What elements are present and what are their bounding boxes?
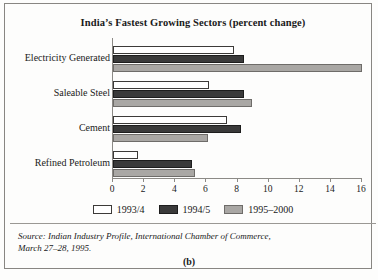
x-axis-tick-label: 8 (224, 184, 250, 194)
category-label: Saleable Steel (0, 87, 110, 98)
figure-panel-b: India’s Fastest Growing Sectors (percent… (0, 0, 378, 280)
x-axis-tick (143, 178, 144, 182)
bar (113, 134, 208, 142)
category-axis-labels: Electricity GeneratedSaleable SteelCemen… (0, 38, 110, 178)
legend-label: 1995–2000 (248, 204, 293, 215)
x-axis-tick-label: 10 (255, 184, 281, 194)
bar (113, 99, 252, 107)
legend-label: 1994/5 (183, 204, 211, 215)
bar-group (113, 116, 362, 142)
bar-group (113, 151, 362, 177)
x-axis-tick (112, 178, 113, 182)
x-axis-tick-label: 6 (192, 184, 218, 194)
x-axis-tick-label: 2 (130, 184, 156, 194)
chart-panel: India’s Fastest Growing Sectors (percent… (10, 8, 376, 224)
x-axis-tick (330, 178, 331, 182)
legend-item: 1993/4 (93, 204, 145, 215)
legend-swatch-icon (159, 205, 178, 214)
legend-label: 1993/4 (117, 204, 145, 215)
x-axis-tick-label: 16 (348, 184, 374, 194)
bar-group (113, 46, 362, 72)
legend-swatch-icon (224, 205, 243, 214)
x-axis-tick-label: 14 (317, 184, 343, 194)
bar (113, 90, 244, 98)
x-axis-tick (174, 178, 175, 182)
bar (113, 64, 362, 72)
x-axis-tick (299, 178, 300, 182)
x-axis-tick-label: 0 (99, 184, 125, 194)
source-line-1: Source: Indian Industry Profile, Interna… (18, 230, 348, 242)
plot-area: Electricity GeneratedSaleable SteelCemen… (112, 38, 361, 178)
x-axis-tick (361, 178, 362, 182)
bar (113, 46, 234, 54)
chart-legend: 1993/41994/51995–2000 (10, 204, 376, 215)
bar (113, 169, 195, 177)
category-label: Cement (0, 122, 110, 133)
panel-label: (b) (0, 256, 378, 267)
bar-group (113, 81, 362, 107)
legend-swatch-icon (93, 205, 112, 214)
x-axis-tick (205, 178, 206, 182)
bar (113, 125, 241, 133)
figure-border: India’s Fastest Growing Sectors (percent… (4, 3, 372, 269)
source-line-2: March 27–28, 1995. (18, 242, 348, 254)
category-label: Refined Petroleum (0, 157, 110, 168)
x-axis-tick (237, 178, 238, 182)
x-axis-tick-label: 12 (286, 184, 312, 194)
x-axis-tick-label: 4 (161, 184, 187, 194)
x-axis-tick (268, 178, 269, 182)
bar (113, 55, 244, 63)
category-label: Electricity Generated (0, 52, 110, 63)
bar (113, 151, 138, 159)
bar (113, 160, 192, 168)
legend-item: 1994/5 (159, 204, 211, 215)
bar (113, 116, 227, 124)
bar (113, 81, 209, 89)
chart-title: India’s Fastest Growing Sectors (percent… (10, 17, 376, 28)
legend-item: 1995–2000 (224, 204, 293, 215)
source-note: Source: Indian Industry Profile, Interna… (18, 230, 348, 254)
